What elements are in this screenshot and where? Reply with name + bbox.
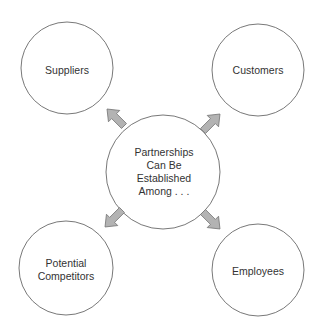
potential-competitors-label: Potential Competitors xyxy=(38,257,95,283)
customers-label: Customers xyxy=(233,64,284,77)
suppliers-label: Suppliers xyxy=(45,64,89,77)
label-line: Suppliers xyxy=(45,64,89,77)
label-line: Established xyxy=(135,172,194,185)
arrow-to-suppliers xyxy=(101,103,129,131)
label-line: Employees xyxy=(232,265,284,278)
label-line: Partnerships xyxy=(135,146,194,159)
label-line: Can Be xyxy=(135,159,194,172)
label-line: Among . . . xyxy=(135,185,194,198)
label-line: Competitors xyxy=(38,270,95,283)
employees-label: Employees xyxy=(232,265,284,278)
label-line: Customers xyxy=(233,64,284,77)
label-line: Potential xyxy=(38,257,95,270)
center-label: Partnerships Can Be Established Among . … xyxy=(135,146,194,198)
